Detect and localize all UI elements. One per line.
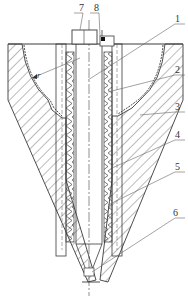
screw-flight-left xyxy=(66,52,74,242)
leader-7 xyxy=(74,13,83,30)
label-2: 2 xyxy=(175,65,180,75)
top-nut xyxy=(72,30,97,44)
label-6: 6 xyxy=(173,208,178,218)
screw-flight-right xyxy=(104,52,112,242)
label-7: 7 xyxy=(79,3,84,13)
label-3: 3 xyxy=(175,102,180,112)
label-radius: r xyxy=(37,70,41,80)
label-1: 1 xyxy=(175,14,180,24)
hopper-nozzle-cross-section xyxy=(0,0,188,296)
label-5: 5 xyxy=(175,162,180,172)
key-mark xyxy=(101,37,105,41)
label-8: 8 xyxy=(94,3,99,13)
label-4: 4 xyxy=(175,130,180,140)
